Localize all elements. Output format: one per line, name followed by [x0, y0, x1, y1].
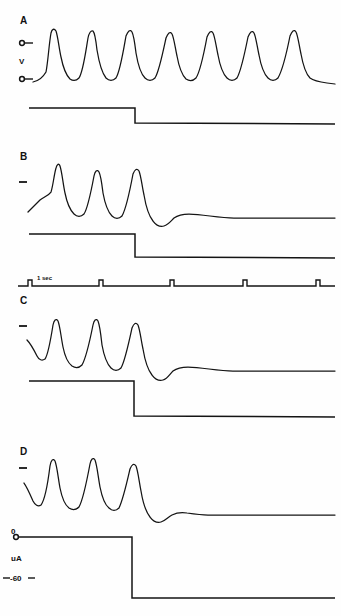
panel-d-zero-marker: 0 — [11, 527, 18, 539]
panel-d-level-marker: -60 — [3, 574, 35, 583]
panel-d-current-unit: uA — [11, 554, 22, 563]
time-marker-group: 1 sec — [18, 275, 335, 286]
panel-a-zero-marker-bottom — [20, 77, 33, 82]
time-scale-label: 1 sec — [37, 275, 53, 281]
figure-canvas: A V B — [0, 0, 341, 616]
panel-b: B 1 sec — [18, 151, 335, 286]
panel-a: A V — [19, 15, 335, 124]
panel-d-current-trace — [19, 537, 335, 598]
panel-d-letter: D — [20, 446, 27, 457]
panel-a-current-trace — [29, 108, 335, 124]
zero-circle-icon — [20, 77, 25, 82]
electrophysiology-figure: A V B — [0, 0, 341, 616]
panel-a-voltage-unit: V — [19, 57, 25, 66]
panel-a-voltage-trace — [33, 29, 335, 84]
panel-d-level-label: -60 — [10, 574, 22, 583]
panel-b-current-trace — [29, 234, 335, 258]
panel-c-letter: C — [20, 295, 27, 306]
panel-c: C — [19, 295, 335, 417]
panel-b-letter: B — [20, 151, 27, 162]
panel-a-letter: A — [20, 15, 27, 26]
panel-d: D 0 uA -60 — [3, 446, 335, 598]
panel-b-voltage-trace — [28, 164, 335, 226]
panel-c-voltage-trace — [27, 320, 335, 381]
panel-a-zero-marker-top — [20, 41, 33, 46]
panel-c-current-trace — [29, 381, 335, 417]
zero-circle-icon — [20, 41, 25, 46]
panel-d-voltage-trace — [24, 459, 335, 523]
panel-d-zero-label: 0 — [11, 527, 16, 536]
time-marker-trace — [18, 280, 335, 286]
